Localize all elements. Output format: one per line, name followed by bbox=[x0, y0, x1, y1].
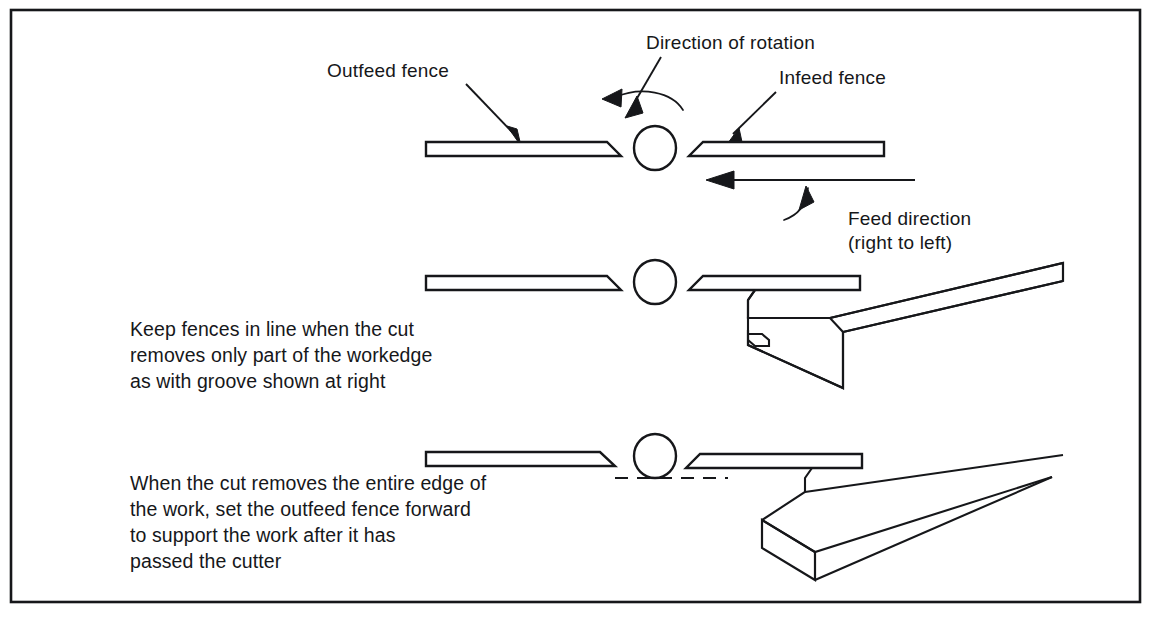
bottom-row-cutter bbox=[634, 434, 676, 478]
bottom-row-infeed-fence bbox=[686, 454, 862, 468]
figure-root: Direction of rotation Outfeed fence Infe… bbox=[0, 0, 1151, 628]
caption-bottom-line-1: When the cut removes the entire edge of bbox=[130, 472, 487, 494]
top-row-outfeed-fence bbox=[426, 142, 621, 156]
label-feed-direction-line1: Feed direction bbox=[848, 208, 971, 229]
middle-row-outfeed-fence bbox=[426, 276, 621, 290]
label-direction-of-rotation: Direction of rotation bbox=[646, 32, 815, 53]
caption-middle-line-1: Keep fences in line when the cut bbox=[130, 318, 414, 340]
label-feed-direction-line2: (right to left) bbox=[848, 232, 952, 253]
label-outfeed-fence: Outfeed fence bbox=[327, 60, 449, 81]
bottom-row-outfeed-fence bbox=[426, 452, 615, 466]
top-row-cutter bbox=[634, 126, 676, 170]
caption-middle-line-2: removes only part of the workedge bbox=[130, 344, 432, 366]
middle-row-cutter bbox=[634, 260, 676, 304]
top-row-infeed-fence bbox=[689, 142, 884, 156]
middle-row-infeed-fence bbox=[689, 276, 860, 290]
caption-bottom-line-4: passed the cutter bbox=[130, 550, 282, 572]
caption-middle-line-3: as with groove shown at right bbox=[130, 370, 386, 392]
caption-bottom-line-3: to support the work after it has bbox=[130, 524, 396, 546]
caption-bottom-line-2: the work, set the outfeed fence forward bbox=[130, 498, 471, 520]
jointer-fence-diagram: Direction of rotation Outfeed fence Infe… bbox=[0, 0, 1151, 628]
label-infeed-fence: Infeed fence bbox=[779, 67, 886, 88]
